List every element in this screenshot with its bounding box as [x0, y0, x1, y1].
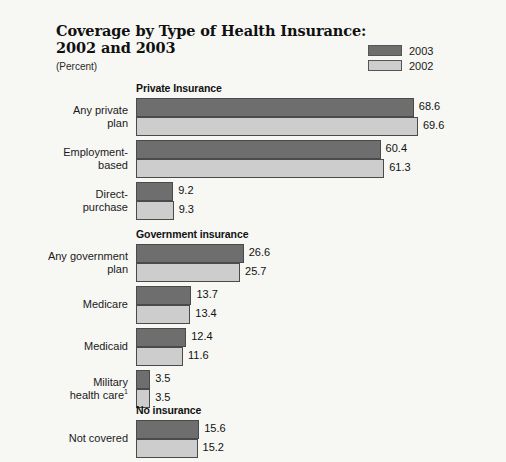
bar-2003[interactable] [136, 98, 414, 117]
bar-value-label: 61.3 [389, 161, 410, 173]
bar-group: Direct- purchase9.29.3 [0, 182, 506, 224]
bar-2002[interactable] [136, 201, 174, 220]
category-label: Military health care1 [0, 376, 128, 401]
bar-value-label: 68.6 [419, 100, 440, 112]
bar-value-label: 11.6 [188, 349, 209, 361]
bar-value-label: 26.6 [249, 246, 270, 258]
bar-2003[interactable] [136, 286, 191, 305]
category-label: Any private plan [0, 104, 128, 129]
bar-value-label: 15.2 [203, 441, 224, 453]
bar-group: Any government plan26.625.7 [0, 244, 506, 286]
bar-2003[interactable] [136, 182, 173, 201]
category-label: Not covered [0, 432, 128, 445]
bar-group: Any private plan68.669.6 [0, 98, 506, 140]
category-label: Any government plan [0, 250, 128, 275]
bar-value-label: 3.5 [155, 391, 170, 403]
section-title: No insurance [136, 404, 201, 416]
bar-value-label: 13.4 [195, 307, 216, 319]
bar-value-label: 9.2 [178, 184, 193, 196]
bar-value-label: 69.6 [423, 119, 444, 131]
bar-value-label: 12.4 [191, 330, 212, 342]
bar-2002[interactable] [136, 263, 240, 282]
bar-group: Employment- based60.461.3 [0, 140, 506, 182]
bar-value-label: 60.4 [386, 142, 407, 154]
category-label: Medicare [0, 298, 128, 311]
footnote-marker: 1 [124, 388, 128, 395]
bar-value-label: 25.7 [245, 265, 266, 277]
bar-2002[interactable] [136, 305, 190, 324]
bar-2002[interactable] [136, 347, 183, 366]
bar-2002[interactable] [136, 159, 384, 178]
bar-2003[interactable] [136, 328, 186, 347]
bar-value-label: 13.7 [196, 288, 217, 300]
category-label: Medicaid [0, 340, 128, 353]
bar-value-label: 9.3 [179, 203, 194, 215]
section-title: Private Insurance [136, 82, 222, 94]
bar-value-label: 3.5 [155, 372, 170, 384]
section-title: Government insurance [136, 228, 248, 240]
bar-group: Military health care13.53.5 [0, 370, 506, 412]
bar-2003[interactable] [136, 140, 381, 159]
bar-2003[interactable] [136, 420, 199, 439]
bar-group: Not covered15.615.2 [0, 420, 506, 462]
category-label: Direct- purchase [0, 188, 128, 213]
bar-2003[interactable] [136, 244, 244, 263]
bar-group: Medicare13.713.4 [0, 286, 506, 328]
category-label: Employment- based [0, 146, 128, 171]
bar-value-label: 15.6 [204, 422, 225, 434]
bar-2002[interactable] [136, 117, 418, 136]
bar-2003[interactable] [136, 370, 150, 389]
bar-2002[interactable] [136, 439, 198, 458]
bar-group: Medicaid12.411.6 [0, 328, 506, 370]
